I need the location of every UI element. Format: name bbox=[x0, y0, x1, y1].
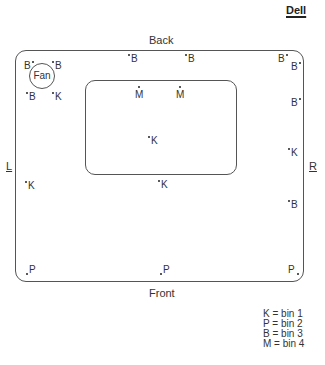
point-code: K bbox=[151, 135, 158, 146]
front-label: Front bbox=[149, 287, 175, 299]
point-dot-icon bbox=[25, 181, 27, 183]
measurement-point: P bbox=[288, 265, 299, 275]
measurement-point: K bbox=[148, 136, 158, 146]
point-code: K bbox=[291, 147, 298, 158]
point-dot-icon bbox=[26, 273, 28, 275]
point-code: B bbox=[24, 60, 31, 71]
measurement-point: P bbox=[160, 265, 170, 275]
point-code: P bbox=[163, 264, 170, 275]
point-code: B bbox=[55, 60, 62, 71]
point-dot-icon bbox=[158, 180, 160, 182]
point-code: B bbox=[291, 97, 298, 108]
point-dot-icon bbox=[297, 273, 299, 275]
point-dot-icon bbox=[288, 200, 290, 202]
point-code: M bbox=[176, 89, 184, 100]
measurement-point: B bbox=[52, 61, 62, 71]
left-label: L bbox=[6, 160, 12, 172]
measurement-point: B bbox=[185, 54, 195, 64]
measurement-point: K bbox=[288, 148, 298, 158]
legend-item: M = bin 4 bbox=[263, 339, 304, 349]
point-code: K bbox=[161, 179, 168, 190]
point-dot-icon bbox=[52, 92, 54, 94]
measurement-point: B bbox=[26, 92, 36, 102]
point-code: K bbox=[55, 91, 62, 102]
right-label: R bbox=[309, 160, 317, 172]
measurement-point: K bbox=[52, 92, 62, 102]
point-code: M bbox=[135, 89, 143, 100]
point-code: B bbox=[131, 53, 138, 64]
measurement-point: B bbox=[128, 54, 138, 64]
measurement-point: B bbox=[278, 54, 288, 64]
point-dot-icon bbox=[148, 136, 150, 138]
point-dot-icon bbox=[138, 86, 140, 88]
point-code: B bbox=[291, 199, 298, 210]
legend: K = bin 1 P = bin 2 B = bin 3 M = bin 4 bbox=[263, 309, 304, 349]
point-dot-icon bbox=[286, 54, 288, 56]
point-code: B bbox=[278, 53, 285, 64]
measurement-point: B bbox=[24, 61, 34, 71]
point-dot-icon bbox=[299, 62, 301, 64]
point-dot-icon bbox=[128, 54, 130, 56]
measurement-point: K bbox=[158, 180, 168, 190]
point-dot-icon bbox=[299, 98, 301, 100]
measurement-point: M bbox=[176, 86, 184, 100]
back-label: Back bbox=[149, 34, 173, 46]
point-dot-icon bbox=[32, 61, 34, 63]
point-code: B bbox=[29, 91, 36, 102]
brand-label: Dell bbox=[286, 4, 306, 16]
measurement-point: B bbox=[291, 98, 301, 108]
point-code: B bbox=[291, 61, 298, 72]
measurement-point: P bbox=[26, 265, 36, 275]
point-code: K bbox=[28, 180, 35, 191]
point-dot-icon bbox=[26, 92, 28, 94]
point-dot-icon bbox=[160, 273, 162, 275]
point-dot-icon bbox=[179, 86, 181, 88]
point-dot-icon bbox=[288, 148, 290, 150]
point-code: P bbox=[288, 264, 295, 275]
measurement-point: B bbox=[291, 62, 301, 72]
point-code: P bbox=[29, 264, 36, 275]
measurement-point: B bbox=[288, 200, 298, 210]
measurement-point: M bbox=[135, 86, 143, 100]
point-dot-icon bbox=[185, 54, 187, 56]
point-code: B bbox=[188, 53, 195, 64]
fan-label: Fan bbox=[33, 70, 50, 81]
inner-component-outline bbox=[85, 80, 237, 175]
measurement-point: K bbox=[25, 181, 35, 191]
point-dot-icon bbox=[52, 61, 54, 63]
